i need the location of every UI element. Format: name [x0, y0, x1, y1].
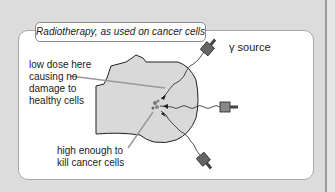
diagram-title: Radiotherapy, as used on cancer cells — [35, 22, 206, 42]
gamma-source-label: γ source — [229, 41, 271, 53]
gamma-source-right — [220, 102, 238, 112]
low-dose-label: low dose here causing no damage to healt… — [29, 59, 91, 107]
gamma-source-bottom — [196, 152, 215, 171]
head-silhouette — [96, 55, 198, 143]
high-dose-label: high enough to kill cancer cells — [57, 145, 124, 169]
